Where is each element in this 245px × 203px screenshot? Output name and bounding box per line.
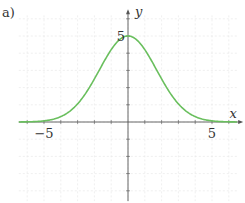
x-tick-label: 5: [208, 126, 216, 141]
x-arrow-icon: [238, 120, 243, 124]
y-axis-label: y: [134, 4, 143, 19]
y-tick-label: 5: [117, 29, 125, 44]
x-axis-label: x: [230, 106, 238, 121]
y-arrow-icon: [126, 9, 130, 14]
gaussian-chart: −555xy: [0, 0, 245, 203]
x-tick-label: −5: [34, 126, 53, 141]
axes: [19, 9, 243, 201]
